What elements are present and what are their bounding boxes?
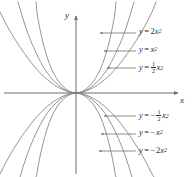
eq-fraction-one-half: 1 2 <box>156 109 161 122</box>
eq-fraction-one-half: 1 2 <box>151 61 156 74</box>
eq-equals: = <box>143 111 151 120</box>
equation-label-y-eq-neg-half-x2: y = − 1 2 x 2 <box>139 109 169 122</box>
curve-y-eq-neg-2x2-left <box>36 93 76 177</box>
equation-label-y-eq-neg-x2: y = − x 2 <box>139 128 163 137</box>
fraction-denominator: 2 <box>156 115 161 122</box>
eq-equals: = <box>143 146 151 155</box>
fraction-denominator: 2 <box>151 67 156 74</box>
curve-y-eq-half-x2-left <box>0 12 76 93</box>
eq-minus-sign: − <box>151 111 156 120</box>
equation-label-y-eq-x2: y = x 2 <box>139 45 157 54</box>
equation-label-y-eq-neg-2x2: y = − 2 x 2 <box>139 146 167 155</box>
eq-equals: = <box>143 27 151 36</box>
eq-equals: = <box>143 128 151 137</box>
eq-equals: = <box>143 45 151 54</box>
parabola-family-figure: y x y = 2 x 2 y = x 2 y = 1 2 x 2 y = − … <box>0 0 194 177</box>
y-axis-label: y <box>65 11 69 20</box>
curve-y-eq-neg-half-x2-left <box>0 93 76 174</box>
equation-label-y-eq-half-x2: y = 1 2 x 2 <box>139 61 163 74</box>
curve-y-eq-2x2 <box>76 2 116 93</box>
equation-label-y-eq-2x2: y = 2 x 2 <box>139 27 162 36</box>
x-axis-label: x <box>180 96 184 105</box>
curve-y-eq-2x2-left <box>36 2 76 93</box>
eq-equals: = <box>143 63 151 72</box>
curve-y-eq-neg-2x2 <box>76 93 116 177</box>
